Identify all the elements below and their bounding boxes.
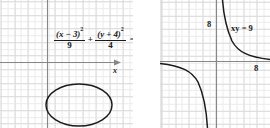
hyperbola-branch-quadrant-3 <box>160 63 208 128</box>
term-1-numerator: (x − 3)2 <box>54 28 85 41</box>
equation-equals-sign: = <box>130 35 133 44</box>
ellipse-curve <box>46 84 112 126</box>
hyperbola-plot-panel: 8 8 <box>160 0 270 128</box>
ellipse-curve-layer <box>0 0 133 128</box>
term-2-numerator: (y + 4)2 <box>95 28 125 41</box>
x-axis-label: x <box>113 67 117 75</box>
term-2-denominator: 4 <box>106 41 115 51</box>
ellipse-equation-term-2: (y + 4)2 4 <box>95 28 125 50</box>
term-1-denominator: 9 <box>65 41 74 51</box>
ellipse-plot-panel: x (x − 3)2 9 + (y + 4)2 4 = 1 <box>0 0 133 128</box>
y-axis-tick-label-8: 8 <box>207 20 211 29</box>
figure-canvas: x (x − 3)2 9 + (y + 4)2 4 = 1 <box>0 0 270 128</box>
x-axis-tick-label-8: 8 <box>254 64 258 73</box>
ellipse-equation-term-1: (x − 3)2 9 <box>54 28 85 50</box>
equation-plus-operator: + <box>88 35 93 44</box>
ellipse-equation: (x − 3)2 9 + (y + 4)2 4 = 1 <box>53 28 133 50</box>
hyperbola-curve-label: xy = 9 <box>231 24 253 33</box>
